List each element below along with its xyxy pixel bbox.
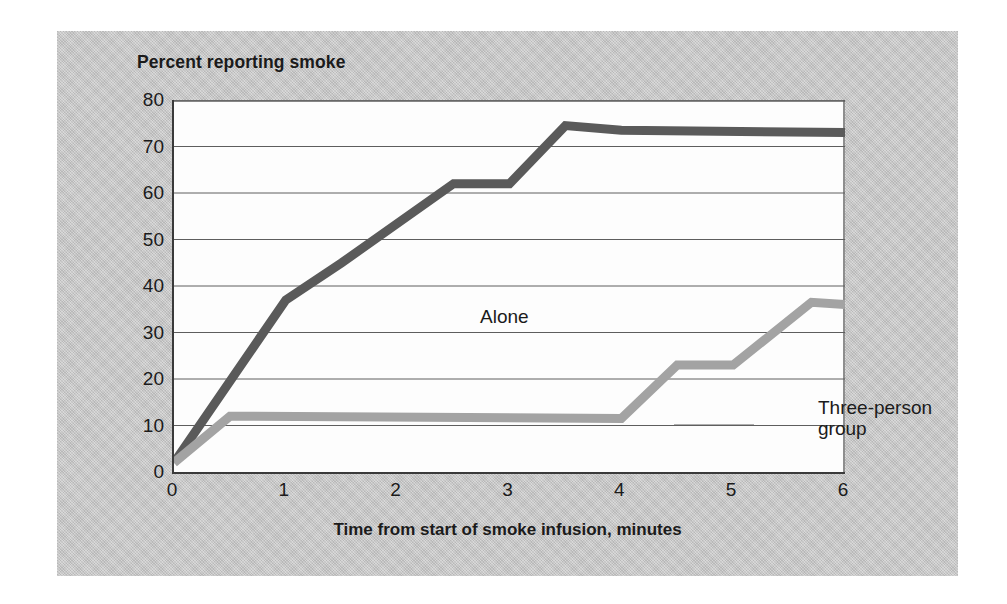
x-tick-label-6: 6 bbox=[838, 479, 849, 501]
y-tick-label-0: 0 bbox=[118, 461, 164, 483]
x-tick-label-0: 0 bbox=[167, 479, 178, 501]
series-label-alone: Alone bbox=[480, 306, 529, 327]
series-label-line2: group bbox=[818, 418, 867, 439]
x-tick-label-5: 5 bbox=[726, 479, 737, 501]
series-label-line1: Three-person bbox=[818, 397, 932, 418]
plot-svg bbox=[174, 100, 845, 472]
plot-area: Alone Three-person group bbox=[172, 100, 845, 474]
series-label-three-person-group: Three-person group bbox=[818, 397, 932, 440]
series-lines bbox=[174, 126, 845, 463]
y-tick-label-60: 60 bbox=[118, 182, 164, 204]
y-axis-tick-labels: 01020304050607080 bbox=[112, 100, 164, 472]
x-tick-label-2: 2 bbox=[390, 479, 401, 501]
y-tick-label-10: 10 bbox=[118, 415, 164, 437]
y-tick-label-20: 20 bbox=[118, 368, 164, 390]
y-tick-label-30: 30 bbox=[118, 322, 164, 344]
y-tick-label-80: 80 bbox=[118, 89, 164, 111]
x-tick-label-4: 4 bbox=[614, 479, 625, 501]
y-tick-label-50: 50 bbox=[118, 229, 164, 251]
x-axis-title: Time from start of smoke infusion, minut… bbox=[172, 520, 843, 540]
x-tick-label-3: 3 bbox=[502, 479, 513, 501]
x-tick-label-1: 1 bbox=[279, 479, 290, 501]
y-tick-label-70: 70 bbox=[118, 136, 164, 158]
figure-root: Percent reporting smoke 0102030405060708… bbox=[0, 0, 1007, 604]
y-tick-label-40: 40 bbox=[118, 275, 164, 297]
chart-title: Percent reporting smoke bbox=[137, 52, 345, 73]
x-axis-tick-labels: 0123456 bbox=[172, 479, 843, 507]
